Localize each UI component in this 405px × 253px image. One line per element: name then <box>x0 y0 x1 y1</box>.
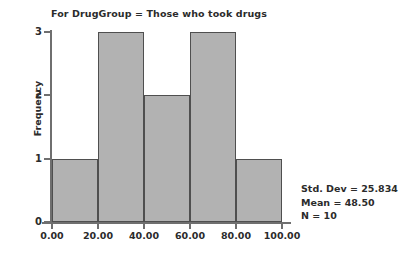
x-axis-tick-mark <box>281 222 283 229</box>
histogram-figure: For DrugGroup = Those who took drugs Fre… <box>0 0 405 253</box>
chart-title: For DrugGroup = Those who took drugs <box>51 8 267 19</box>
x-axis-tick-mark <box>235 222 237 229</box>
x-axis-line <box>42 222 291 224</box>
y-axis-tick-mark <box>44 221 51 223</box>
y-axis-tick-label: 0 <box>28 217 42 227</box>
x-axis-tick-mark <box>189 222 191 229</box>
y-axis-tick-mark <box>44 158 51 160</box>
statistics-annotation: Std. Dev = 25.834 Mean = 48.50 N = 10 <box>301 182 398 223</box>
y-axis-tick-mark <box>44 94 51 96</box>
x-axis-tick-mark <box>97 222 99 229</box>
y-axis-tick-label: 3 <box>28 27 42 37</box>
n-text: N = 10 <box>301 209 398 223</box>
histogram-bar <box>236 159 282 222</box>
histogram-bar <box>52 159 98 222</box>
x-axis-tick-mark <box>143 222 145 229</box>
y-axis-tick-mark <box>44 31 51 33</box>
plot-area <box>52 32 282 222</box>
histogram-bar <box>98 32 144 222</box>
y-axis-tick-label: 2 <box>28 90 42 100</box>
y-axis-title: Frequency <box>32 64 43 154</box>
std-dev-text: Std. Dev = 25.834 <box>301 182 398 196</box>
x-axis-tick-label: 100.00 <box>252 231 312 241</box>
y-axis-tick-label: 1 <box>28 154 42 164</box>
mean-text: Mean = 48.50 <box>301 196 398 210</box>
x-axis-tick-mark <box>51 222 53 229</box>
histogram-bar <box>144 95 190 222</box>
histogram-bar <box>190 32 236 222</box>
